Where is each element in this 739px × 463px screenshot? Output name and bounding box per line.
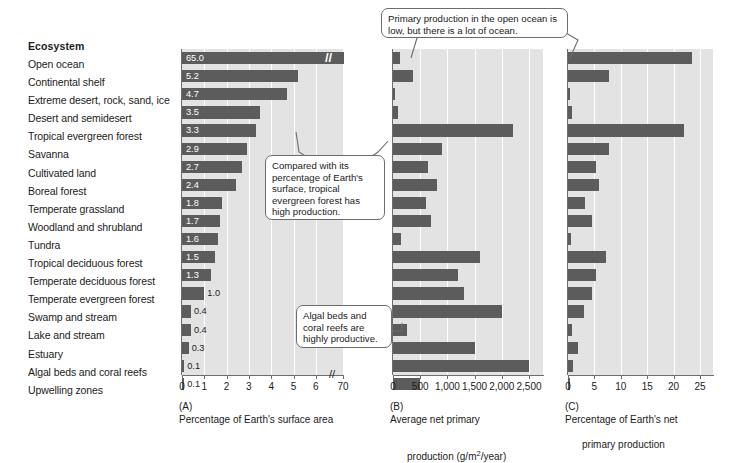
- callout-open-ocean: Primary production in the open ocean is …: [381, 8, 568, 38]
- callout-open-ocean-text: Primary production in the open ocean is …: [388, 13, 557, 36]
- callout-tropical-evergreen: Compared with its percentage of Earth's …: [265, 155, 385, 220]
- chart-c-caption-line2: primary production: [582, 439, 665, 451]
- callout-algal-beds-text: Algal beds and coral reefs are highly pr…: [303, 310, 378, 344]
- callout-tropical-evergreen-text: Compared with its percentage of Earth's …: [272, 160, 363, 217]
- callout-algal-beds: Algal beds and coral reefs are highly pr…: [296, 305, 392, 348]
- chart-b-caption-units-post: /year): [481, 451, 507, 462]
- chart-b-caption-units-pre: production (g/m: [407, 451, 476, 462]
